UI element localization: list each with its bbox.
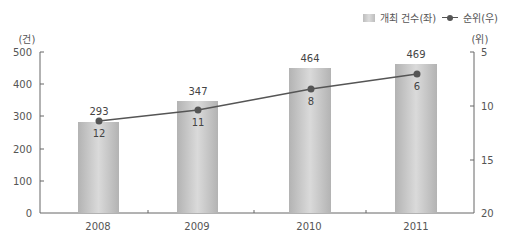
- bar-value-label: 469: [406, 49, 425, 60]
- line-point-2009: [195, 107, 202, 114]
- rank-value-label: 12: [93, 128, 106, 139]
- x-tick-label: 2009: [184, 221, 209, 232]
- line-series: [96, 71, 421, 125]
- rank-value-label: 8: [308, 96, 314, 107]
- right-axis-unit: (위): [472, 33, 489, 45]
- left-tick-label: 200: [13, 144, 32, 155]
- left-axis: (건) 500 400 300 200 100 0: [13, 34, 44, 219]
- rank-value-label: 6: [414, 81, 420, 92]
- left-tick-label: 400: [13, 79, 32, 90]
- right-tick-label: 10: [481, 101, 494, 112]
- line-point-2010: [308, 86, 315, 93]
- combo-chart: (건) 500 400 300 200 100 0 2008 2009 2010…: [0, 0, 512, 249]
- left-tick-label: 100: [13, 176, 32, 187]
- right-tick-label: 5: [481, 47, 487, 58]
- right-tick-label: 20: [481, 208, 494, 219]
- left-tick-label: 0: [26, 208, 32, 219]
- right-tick-label: 15: [481, 155, 494, 166]
- left-tick-label: 500: [13, 47, 32, 58]
- x-axis: 2008 2009 2010 2011: [40, 210, 474, 232]
- line-point-2011: [414, 71, 421, 78]
- x-tick-label: 2008: [85, 221, 110, 232]
- x-tick-label: 2010: [296, 221, 321, 232]
- bar-value-label: 293: [89, 106, 108, 117]
- bar-value-label: 464: [300, 53, 319, 64]
- x-tick-label: 2011: [403, 221, 428, 232]
- line-point-2008: [96, 118, 103, 125]
- left-axis-unit: (건): [19, 34, 36, 45]
- bar-value-label: 347: [188, 86, 207, 97]
- right-axis: (위) 5 10 15 20: [470, 33, 494, 219]
- left-tick-label: 300: [13, 111, 32, 122]
- bar-series: [78, 64, 437, 213]
- rank-value-label: 11: [192, 117, 205, 128]
